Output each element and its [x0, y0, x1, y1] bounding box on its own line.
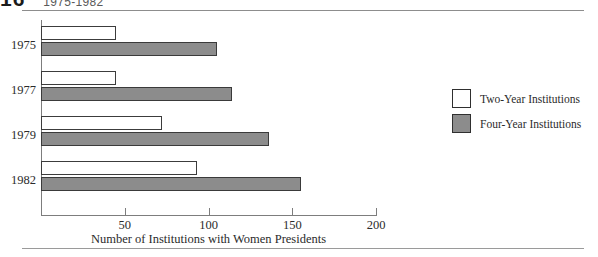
bar-1979-two-year: [41, 116, 162, 130]
bar-1982-four-year: [41, 177, 301, 191]
legend-item-two-year: Two-Year Institutions: [452, 86, 581, 111]
legend-swatch-four-year: [452, 114, 471, 133]
x-tick-label-150: 150: [283, 218, 302, 233]
bar-1979-four-year: [41, 132, 269, 146]
bar-1982-two-year: [41, 161, 197, 175]
x-tick-150: [292, 208, 293, 216]
x-tick-100: [209, 208, 210, 216]
x-tick-50: [125, 208, 126, 216]
y-axis-label-1982: 1982: [0, 173, 36, 188]
x-axis-label: Number of Institutions with Women Presid…: [41, 232, 376, 247]
y-axis-label-1975: 1975: [0, 38, 36, 53]
bar-1975-four-year: [41, 42, 217, 56]
bar-1977-two-year: [41, 71, 116, 85]
chart-legend: Two-Year Institutions Four-Year Institut…: [452, 86, 581, 136]
x-tick-label-200: 200: [367, 218, 386, 233]
legend-swatch-two-year: [452, 89, 471, 108]
bar-1975-two-year: [41, 26, 116, 40]
bar-1977-four-year: [41, 87, 232, 101]
x-tick-200: [376, 208, 377, 216]
y-axis-label-1977: 1977: [0, 83, 36, 98]
legend-label-four-year: Four-Year Institutions: [480, 118, 581, 130]
legend-label-two-year: Two-Year Institutions: [480, 93, 580, 105]
y-axis-label-1979: 1979: [0, 128, 36, 143]
x-tick-label-50: 50: [119, 218, 132, 233]
x-tick-label-100: 100: [199, 218, 218, 233]
legend-item-four-year: Four-Year Institutions: [452, 111, 581, 136]
